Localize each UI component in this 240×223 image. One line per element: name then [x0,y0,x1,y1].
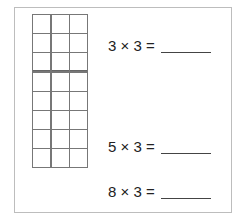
grid-cell [51,110,70,130]
grid-cell [51,14,70,34]
grid-cell [69,14,88,34]
grid-cell [32,129,51,149]
answer-blank[interactable] [161,51,211,53]
grid-cell [69,129,88,149]
problem-2: 5 × 3 = [108,138,211,155]
grid-cell [32,52,51,72]
problem-1: 3 × 3 = [108,37,211,54]
grid-cell [51,52,70,72]
grid-cell [32,33,51,53]
problem-3: 8 × 3 = [108,183,211,200]
grid-cell [32,148,51,168]
grid-cell [51,129,70,149]
grid-cell [69,110,88,130]
grid-cell [32,14,51,34]
grid-cell [51,33,70,53]
grid-cell [51,91,70,111]
grid-cell [69,91,88,111]
grid-cell [32,91,51,111]
grid-cell [69,52,88,72]
problem-expression: 8 × 3 = [108,183,155,200]
grid-cell [69,148,88,168]
grid-cell [69,72,88,92]
answer-blank[interactable] [161,197,211,199]
problem-expression: 5 × 3 = [108,138,155,155]
grid-cell [69,33,88,53]
grid-cell [32,72,51,92]
problem-expression: 3 × 3 = [108,37,155,54]
grid-cell [32,110,51,130]
grid-cell [51,72,70,92]
answer-blank[interactable] [161,152,211,154]
grid-cell [51,148,70,168]
